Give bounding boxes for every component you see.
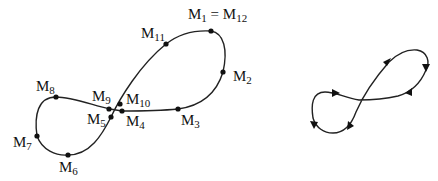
label-M2: M2 xyxy=(233,68,252,86)
label-M3: M3 xyxy=(181,112,200,130)
diagram-canvas: M1 = M12 M2 M3 M4 M5 M6 M7 M8 M9 M10 M11 xyxy=(0,0,438,181)
point-M10 xyxy=(117,101,122,106)
arrow-icon xyxy=(422,64,430,72)
point-M7 xyxy=(34,133,39,138)
label-M1: M1 = M12 xyxy=(188,6,247,24)
point-M6 xyxy=(65,152,70,157)
label-M11: M11 xyxy=(141,25,165,43)
figure-eight-diagram: M1 = M12 M2 M3 M4 M5 M6 M7 M8 M9 M10 M11 xyxy=(0,0,438,181)
label-M4: M4 xyxy=(126,113,145,131)
point-M5 xyxy=(108,114,113,119)
label-M7: M7 xyxy=(13,134,32,152)
arrow-icon xyxy=(405,88,412,96)
point-M9 xyxy=(106,106,111,111)
label-M8: M8 xyxy=(36,78,55,96)
label-M10: M10 xyxy=(126,91,151,109)
label-M9: M9 xyxy=(92,88,111,106)
point-M4 xyxy=(119,108,124,113)
point-M2 xyxy=(220,69,225,74)
label-M6: M6 xyxy=(59,159,78,177)
arrow-icon xyxy=(332,89,340,97)
label-M5: M5 xyxy=(87,111,106,129)
point-M1 xyxy=(208,28,213,33)
point-M3 xyxy=(175,106,180,111)
